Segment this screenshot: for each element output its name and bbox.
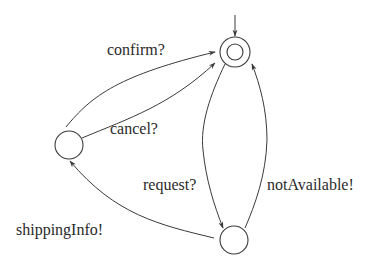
label-request: request? <box>143 177 196 193</box>
state-left[interactable] <box>55 131 83 159</box>
state-bottom[interactable] <box>220 226 248 254</box>
label-confirm: confirm? <box>107 42 165 58</box>
label-shipping-info: shippingInfo! <box>16 222 103 238</box>
label-not-available: notAvailable! <box>267 177 354 193</box>
transition-not-available <box>245 64 267 228</box>
state-initial[interactable] <box>220 37 250 67</box>
transition-request <box>202 64 225 228</box>
label-cancel: cancel? <box>110 121 158 137</box>
transition-confirm <box>66 52 215 127</box>
